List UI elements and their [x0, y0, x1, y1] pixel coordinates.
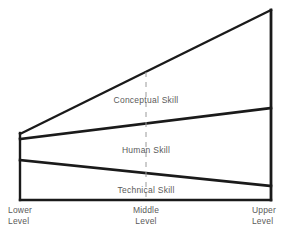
band-label-technical-skill: Technical Skill: [117, 185, 174, 195]
axis-label-middle-line2: Level: [133, 216, 159, 227]
band-label-conceptual-skill: Conceptual Skill: [114, 95, 179, 105]
axis-label-lower-line2: Level: [8, 216, 32, 227]
axis-label-lower-level: Lower Level: [8, 205, 32, 226]
skill-mix-diagram: Conceptual Skill Human Skill Technical S…: [0, 0, 288, 231]
skill-bands-svg: [0, 0, 288, 231]
band-label-human-skill: Human Skill: [122, 145, 170, 155]
axis-label-middle-line1: Middle: [133, 205, 159, 215]
axis-label-middle-level: Middle Level: [133, 205, 159, 226]
axis-label-upper-level: Upper Level: [252, 205, 276, 226]
axis-label-upper-line2: Level: [252, 216, 276, 227]
axis-label-upper-line1: Upper: [252, 205, 276, 215]
axis-label-lower-line1: Lower: [8, 205, 32, 215]
